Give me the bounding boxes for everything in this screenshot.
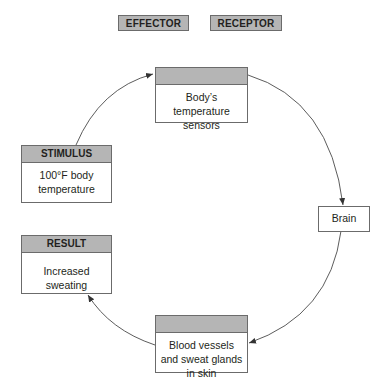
brain-node: Brain [318,206,370,232]
arrow-effector-to-result [88,295,155,345]
effector-node-text: Blood vessels and sweat glands in skin [156,333,247,380]
receptor-node-text: Body’s temperature sensors [156,85,247,132]
effector-node-header [156,316,247,333]
stimulus-node-header: STIMULUS [22,146,111,163]
arrow-brain-to-effector [249,231,341,343]
receptor-node: Body’s temperature sensors [155,67,248,123]
stimulus-node: STIMULUS 100°F body temperature [21,145,112,203]
effector-node: Blood vessels and sweat glands in skin [155,315,248,373]
receptor-node-header [156,68,247,85]
result-node-header: RESULT [22,236,111,253]
arrow-stimulus-to-receptor [76,74,153,145]
arrow-receptor-to-brain [248,75,343,205]
result-node: RESULT Increased sweating [21,235,112,294]
stimulus-node-text: 100°F body temperature [22,163,111,196]
result-node-text: Increased sweating [22,253,111,292]
